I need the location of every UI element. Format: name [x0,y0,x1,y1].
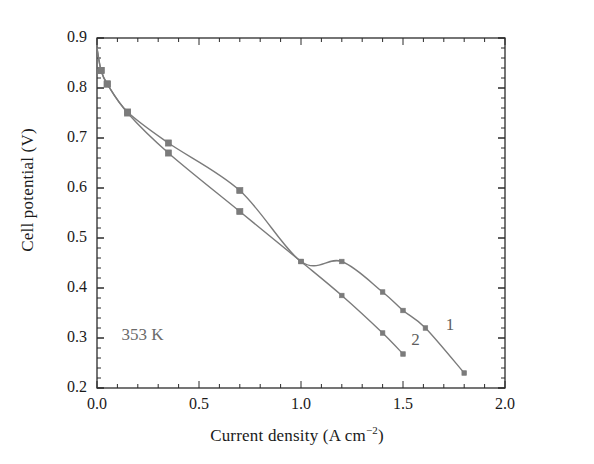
x-tick-label: 0.0 [69,395,125,413]
data-point-marker [125,110,131,116]
y-tick-label: 0.6 [39,178,87,196]
data-point-marker [340,293,345,298]
figure-container: 0.20.30.40.50.60.70.80.90.00.51.01.52.0 … [0,0,594,464]
y-tick-label: 0.2 [39,378,87,396]
data-point-marker [237,187,243,193]
data-point-marker [98,67,104,73]
temperature-annotation: 353 K [121,325,163,345]
data-point-marker [237,208,243,214]
y-tick-label: 0.4 [39,278,87,296]
y-tick-label: 0.7 [39,128,87,146]
curve-label-1: 1 [446,315,455,335]
data-point-marker [462,371,467,376]
x-tick-label: 0.5 [171,395,227,413]
data-point-marker [340,259,345,264]
x-axis-label: Current density (A cm−2) [0,424,594,446]
data-point-marker [380,331,385,336]
y-tick-label: 0.3 [39,328,87,346]
y-tick-label: 0.9 [39,28,87,46]
x-axis-label-close: ) [378,426,384,445]
data-point-marker [299,259,304,264]
data-point-marker [165,140,171,146]
x-tick-label: 1.0 [273,395,329,413]
data-point-marker [423,326,428,331]
data-point-marker [401,352,406,357]
data-point-marker [380,290,385,295]
y-tick-label: 0.8 [39,78,87,96]
data-point-marker [104,81,110,87]
y-axis-label: Cell potential (V) [18,128,37,252]
x-tick-label: 1.5 [375,395,431,413]
data-point-marker [165,150,171,156]
curve-label-2: 2 [411,330,420,350]
y-axis-label-wrapper: Cell potential (V) [18,20,38,360]
x-axis-label-main: Current density (A cm [210,426,366,445]
y-tick-label: 0.5 [39,228,87,246]
x-axis-label-superscript: −2 [366,424,378,436]
x-tick-label: 2.0 [477,395,533,413]
data-point-marker [401,308,406,313]
